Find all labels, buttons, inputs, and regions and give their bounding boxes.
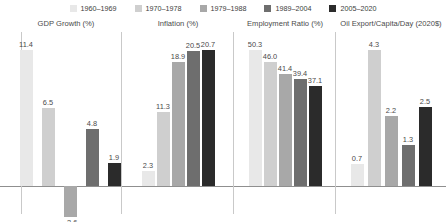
bar-value-label: 4.8 [87, 119, 97, 128]
bar-value-label: 39.4 [293, 69, 307, 78]
chart-panel: GDP Growth (%)11.46.5−2.64.81.9 [10, 18, 122, 222]
bar-value-label: 20.7 [201, 40, 215, 49]
legend-swatch-icon [264, 5, 271, 12]
bar [172, 62, 185, 186]
chart-legend: 1960–1969 1970–1978 1979–1988 1989–2004 … [0, 0, 446, 18]
panel-title: GDP Growth (%) [10, 18, 122, 30]
bar-value-label: 41.4 [278, 64, 292, 73]
bar [402, 145, 415, 186]
legend-item-label: 1960–1969 [81, 5, 117, 12]
legend-item-label: 1979–1988 [211, 5, 247, 12]
legend-item: 1970–1978 [135, 5, 182, 12]
bar-value-label: 46.0 [263, 52, 277, 61]
bar-value-label: 18.9 [171, 52, 185, 61]
bar [157, 112, 170, 186]
legend-item: 1979–1988 [200, 5, 247, 12]
legend-item-label: 1970–1978 [146, 5, 182, 12]
legend-swatch-icon [200, 5, 207, 12]
chart-panels: GDP Growth (%)11.46.5−2.64.81.9Inflation… [0, 18, 446, 222]
legend-swatch-icon [70, 5, 77, 12]
legend-swatch-icon [329, 5, 336, 12]
bar-value-label: 20.5 [186, 41, 200, 50]
bar [368, 50, 381, 186]
panel-separator [335, 32, 336, 214]
chart-panel: Oil Export/Capita/Day (2020$)0.74.32.21.… [336, 18, 446, 222]
bar [64, 186, 77, 217]
bar [249, 50, 262, 186]
bar-value-label: 2.2 [386, 106, 396, 115]
bar [351, 164, 364, 186]
bar-value-label: 2.3 [143, 161, 153, 170]
legend-item-label: 2005–2020 [340, 5, 376, 12]
bar [279, 74, 292, 186]
bar [108, 163, 121, 186]
panel-title: Inflation (%) [122, 18, 234, 30]
bar-value-label: 4.3 [369, 40, 379, 49]
panel-separator [121, 32, 122, 214]
legend-swatch-icon [135, 5, 142, 12]
bar [385, 116, 398, 186]
legend-item-label: 1989–2004 [275, 5, 311, 12]
panel-title: Oil Export/Capita/Day (2020$) [336, 18, 446, 30]
legend-item: 1960–1969 [70, 5, 117, 12]
bar [42, 108, 55, 186]
bar [20, 50, 33, 186]
bar [202, 50, 215, 186]
panel-separator [233, 32, 234, 214]
bar-value-label: 2.5 [420, 97, 430, 106]
bar-value-label: 37.1 [308, 76, 322, 85]
bar [294, 79, 307, 186]
chart-panel: Employment Ratio (%)50.346.041.439.437.1 [234, 18, 336, 222]
bar-value-label: 0.7 [352, 154, 362, 163]
bar [86, 129, 99, 186]
bar [309, 86, 322, 186]
legend-item: 1989–2004 [264, 5, 311, 12]
bar-value-label: 1.3 [403, 135, 413, 144]
bar-value-label: −2.6 [63, 218, 78, 222]
bar-value-label: 6.5 [43, 98, 53, 107]
bar-value-label: 50.3 [248, 40, 262, 49]
bar-value-label: 11.4 [19, 40, 33, 49]
bar [187, 51, 200, 186]
legend-item: 2005–2020 [329, 5, 376, 12]
panel-title: Employment Ratio (%) [234, 18, 336, 30]
bar [264, 62, 277, 186]
chart-panel: Inflation (%)2.311.318.920.520.7 [122, 18, 234, 222]
bar [419, 107, 432, 186]
bar-value-label: 11.3 [156, 102, 170, 111]
bar-value-label: 1.9 [109, 153, 119, 162]
bar [142, 171, 155, 186]
